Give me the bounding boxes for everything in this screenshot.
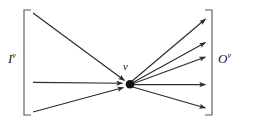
- input-set-label: Iv: [8, 52, 16, 65]
- outgoing-edge-5: [131, 87, 206, 109]
- incoming-edge-1: [33, 13, 125, 81]
- vertex-node: [126, 80, 135, 89]
- output-set-label: Ov: [218, 52, 231, 65]
- left-square-bracket: [24, 10, 31, 115]
- incoming-edges-group: [33, 13, 125, 112]
- outgoing-edges-group: [131, 19, 206, 108]
- vertex-edge-diagram: Iv Ov v: [0, 0, 253, 123]
- right-square-bracket: [205, 10, 212, 115]
- outgoing-edge-1: [131, 19, 206, 82]
- vertex-label: v: [123, 61, 128, 72]
- outgoing-edge-2: [132, 43, 206, 84]
- incoming-edge-3: [33, 88, 124, 113]
- outgoing-edge-3: [132, 57, 206, 84]
- output-set-base: O: [218, 51, 227, 66]
- input-set-superscript: v: [12, 51, 16, 60]
- output-set-superscript: v: [227, 51, 231, 60]
- incoming-edge-2: [33, 82, 123, 83]
